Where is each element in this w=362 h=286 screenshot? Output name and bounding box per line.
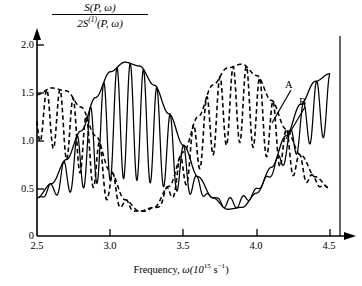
x-axis-ticks [110,229,330,236]
chart-figure: S(P, ω) 2S(1)(P, ω) 2.0 1.5 1.0 0.5 0 2.… [0,0,362,286]
leader-line-a [272,90,291,123]
data-curves [37,62,330,211]
x-axis-arrow-icon [344,232,356,240]
plot-canvas [0,0,362,286]
y-axis-arrow-icon [33,28,41,40]
